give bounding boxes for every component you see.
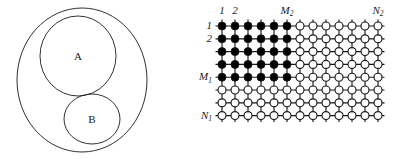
- lattice-node-filled: [218, 60, 226, 68]
- lattice-node-filled: [244, 35, 252, 43]
- lattice-node-open: [374, 73, 382, 81]
- lattice-row-label: 2: [207, 32, 213, 44]
- lattice-node-open: [322, 99, 330, 107]
- lattice-node-open: [296, 35, 304, 43]
- lattice-node-filled: [283, 35, 291, 43]
- lattice-node-open: [374, 35, 382, 43]
- lattice-node-open: [322, 35, 330, 43]
- lattice-node-filled: [270, 22, 278, 30]
- lattice-node-open: [361, 73, 369, 81]
- lattice-node-open: [361, 112, 369, 120]
- figure-root: A B 12M2N2 12M1N1: [0, 0, 396, 159]
- lattice-node-filled: [231, 73, 239, 81]
- lattice-node-open: [296, 48, 304, 56]
- lattice-node-open: [296, 112, 304, 120]
- lattice-node-open: [218, 112, 226, 120]
- lattice-node-open: [348, 99, 356, 107]
- lattice-node-open: [322, 22, 330, 30]
- lattice-node-filled: [257, 60, 265, 68]
- lattice-node-filled: [283, 73, 291, 81]
- lattice-node-open: [309, 22, 317, 30]
- lattice-node-open: [348, 48, 356, 56]
- lattice-node-open: [335, 86, 343, 94]
- lattice-node-open: [309, 99, 317, 107]
- lattice-node-open: [257, 99, 265, 107]
- lattice-node-open: [335, 60, 343, 68]
- lattice-node-open: [231, 112, 239, 120]
- lattice-node-open: [361, 22, 369, 30]
- lattice-node-open: [283, 112, 291, 120]
- lattice-node-filled: [218, 35, 226, 43]
- lattice-node-open: [218, 86, 226, 94]
- lattice-column-label: N2: [371, 4, 383, 18]
- lattice-node-open: [348, 73, 356, 81]
- lattice-node-filled: [231, 60, 239, 68]
- lattice-column-label-group: 12M2N2: [219, 4, 384, 18]
- lattice-node-open: [309, 48, 317, 56]
- lattice-node-open: [231, 99, 239, 107]
- lattice-row-label: 1: [207, 19, 213, 31]
- lattice-node-filled: [270, 73, 278, 81]
- lattice-node-filled: [244, 73, 252, 81]
- lattice-node-open: [374, 60, 382, 68]
- lattice-row-label: M1: [198, 70, 212, 84]
- lattice-node-open: [270, 86, 278, 94]
- lattice-node-filled: [283, 22, 291, 30]
- lattice-node-open: [309, 35, 317, 43]
- lattice-node-open: [322, 48, 330, 56]
- set-diagram-canvas: A B: [0, 0, 198, 159]
- lattice-node-open: [374, 112, 382, 120]
- lattice-node-open: [348, 112, 356, 120]
- lattice-node-open: [309, 112, 317, 120]
- lattice-node-open: [296, 60, 304, 68]
- lattice-node-open: [361, 86, 369, 94]
- lattice-panel: 12M2N2 12M1N1: [196, 0, 396, 159]
- lattice-column-label: M2: [280, 4, 294, 18]
- lattice-node-filled: [244, 48, 252, 56]
- lattice-canvas: 12M2N2 12M1N1: [196, 0, 396, 159]
- lattice-node-open: [361, 99, 369, 107]
- lattice-node-open: [322, 86, 330, 94]
- lattice-node-open: [309, 73, 317, 81]
- lattice-node-filled: [244, 60, 252, 68]
- lattice-node-open: [374, 48, 382, 56]
- lattice-node-open: [335, 99, 343, 107]
- lattice-node-open: [231, 86, 239, 94]
- lattice-node-open: [348, 60, 356, 68]
- lattice-node-open: [361, 48, 369, 56]
- lattice-node-open: [335, 48, 343, 56]
- lattice-node-open: [244, 112, 252, 120]
- lattice-node-open: [296, 99, 304, 107]
- lattice-node-filled: [283, 48, 291, 56]
- lattice-node-filled: [257, 22, 265, 30]
- outer-set-ellipse: [17, 8, 147, 152]
- lattice-column-label: 1: [219, 4, 225, 16]
- lattice-row-label-group: 12M1N1: [198, 19, 212, 123]
- lattice-node-open: [335, 73, 343, 81]
- lattice-node-filled: [244, 22, 252, 30]
- lattice-node-filled: [231, 22, 239, 30]
- lattice-node-open: [322, 112, 330, 120]
- lattice-node-open: [322, 73, 330, 81]
- lattice-node-open: [335, 112, 343, 120]
- lattice-node-open: [283, 99, 291, 107]
- lattice-node-open: [335, 22, 343, 30]
- lattice-row-label: N1: [200, 109, 212, 123]
- lattice-node-open: [374, 99, 382, 107]
- lattice-column-label: 2: [232, 4, 238, 16]
- lattice-node-open: [270, 112, 278, 120]
- lattice-node-filled: [218, 22, 226, 30]
- lattice-node-open: [283, 86, 291, 94]
- lattice-node-filled: [218, 48, 226, 56]
- lattice-node-filled: [270, 60, 278, 68]
- lattice-node-open: [244, 86, 252, 94]
- set-a-label: A: [74, 50, 82, 62]
- lattice-node-open: [296, 22, 304, 30]
- lattice-node-filled: [270, 48, 278, 56]
- lattice-node-filled: [270, 35, 278, 43]
- lattice-node-filled: [218, 73, 226, 81]
- lattice-node-filled: [257, 48, 265, 56]
- lattice-node-open: [218, 99, 226, 107]
- lattice-node-open: [322, 60, 330, 68]
- lattice-node-open: [361, 35, 369, 43]
